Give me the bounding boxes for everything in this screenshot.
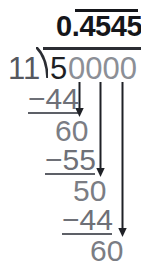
divisor: 11: [8, 53, 40, 84]
long-division-figure: 0.4545 11 5 0000 −44 60 −55 50 −44 60: [0, 0, 141, 267]
subtraction-row-1: −44: [28, 84, 79, 114]
bring-down-arrow-3: [117, 82, 128, 238]
dividend-trailing-zeros: 0000: [68, 53, 137, 84]
bring-down-arrow-2: [95, 82, 106, 178]
remainder-row-2: 50: [73, 176, 106, 206]
quotient-integer-part: 0.: [56, 10, 79, 42]
bring-down-arrow-1: [74, 82, 85, 118]
quotient-repeating-part: 4545: [79, 12, 141, 41]
division-bracket-bar: [43, 47, 141, 50]
quotient: 0.4545: [56, 12, 141, 41]
subtraction-row-2: −55: [45, 145, 96, 175]
remainder-row-3: 60: [90, 236, 123, 266]
subtraction-row-3: −44: [62, 205, 113, 235]
dividend-lead-digit: 5: [50, 53, 67, 84]
remainder-row-1: 60: [55, 116, 88, 146]
